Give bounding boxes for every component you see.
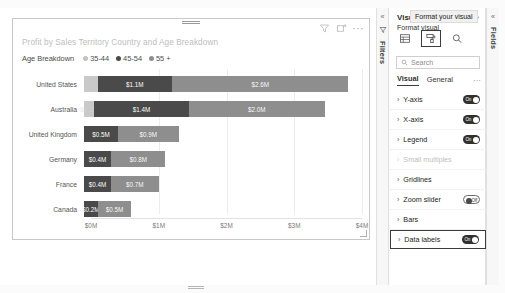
format-pane-tabstrip[interactable] bbox=[395, 30, 467, 47]
legend-swatch-icon bbox=[149, 56, 154, 61]
filter-icon[interactable] bbox=[319, 23, 330, 34]
toggle-knob bbox=[472, 237, 478, 243]
legend-item-55-plus[interactable]: 55 + bbox=[149, 54, 171, 63]
power-bi-window: ··· Profit by Sales Territory Country an… bbox=[0, 0, 505, 293]
data-label: $0.9M bbox=[140, 131, 158, 138]
bar-segment-45-54[interactable]: $1.1M bbox=[98, 76, 173, 92]
toggle-state-label: On bbox=[466, 137, 472, 142]
format-option-y-axis[interactable]: ›Y-axisOn bbox=[390, 90, 486, 110]
bar-segment-55-[interactable]: $0.5M bbox=[98, 201, 132, 217]
report-canvas[interactable]: ··· Profit by Sales Territory Country an… bbox=[0, 8, 376, 285]
data-label: $0.4M bbox=[89, 156, 107, 163]
legend-label: 35-44 bbox=[90, 54, 109, 63]
format-visual-tab[interactable] bbox=[421, 30, 441, 47]
analytics-tab[interactable] bbox=[447, 30, 467, 47]
bar-segment-45-54[interactable]: $1.4M bbox=[94, 101, 189, 117]
bar-segment-35-44[interactable] bbox=[84, 76, 98, 92]
bar-segment-55-[interactable]: $0.7M bbox=[111, 176, 158, 192]
format-pane-header: Visu » Format visual bbox=[390, 8, 485, 52]
format-option-small-multiples[interactable]: ›Small multiples bbox=[390, 150, 486, 170]
data-label: $0.5M bbox=[92, 131, 110, 138]
bar-segment-55-[interactable]: $2.6M bbox=[172, 76, 348, 92]
chevron-right-icon[interactable]: › bbox=[397, 116, 399, 123]
tab-general[interactable]: General bbox=[427, 75, 453, 86]
format-option-label: Y-axis bbox=[403, 95, 422, 104]
visual-drag-handle[interactable] bbox=[182, 21, 200, 24]
data-label: $0.8M bbox=[129, 156, 147, 163]
category-label: Australia bbox=[22, 106, 84, 113]
bar-track: $0.5M$0.9M bbox=[84, 126, 362, 142]
bar-segment-35-44[interactable]: $0.1M bbox=[84, 101, 94, 117]
toggle-knob bbox=[473, 97, 479, 103]
data-label: $0.5M bbox=[106, 206, 124, 213]
fields-rail[interactable]: « Fields bbox=[486, 8, 499, 285]
legend-swatch-icon bbox=[83, 56, 88, 61]
x-axis-tick: $4M bbox=[356, 222, 368, 229]
format-option-label: Data labels bbox=[404, 235, 440, 244]
bar-segment-45-54[interactable]: $0.2M bbox=[84, 201, 98, 217]
bar-segment-55-[interactable]: $2.0M bbox=[189, 101, 325, 117]
filters-rail[interactable]: « Filters bbox=[376, 8, 389, 285]
visual-header-icons[interactable]: ··· bbox=[319, 23, 365, 34]
format-your-visual-tooltip: Format your visual bbox=[410, 10, 478, 23]
chart-bar-row[interactable]: Germany$0.4M$0.8M bbox=[22, 148, 362, 170]
chart-legend[interactable]: Age Breakdown 35-44 45-54 55 + bbox=[22, 54, 171, 63]
subtab-more-icon[interactable]: ··· bbox=[473, 78, 481, 83]
chart-bar-row[interactable]: Australia$0.1M$1.4M$2.0M bbox=[22, 98, 362, 120]
format-option-data-labels[interactable]: ›Data labelsOn bbox=[390, 230, 486, 249]
format-option-x-axis[interactable]: ›X-axisOn bbox=[390, 110, 486, 130]
legend-item-35-44[interactable]: 35-44 bbox=[83, 54, 109, 63]
chevron-right-icon[interactable]: › bbox=[397, 96, 399, 103]
stacked-bar-visual[interactable]: ··· Profit by Sales Territory Country an… bbox=[12, 18, 370, 240]
chart-bar-row[interactable]: United States$1.1M$2.6M bbox=[22, 73, 362, 95]
bar-track: $0.2M$0.5M bbox=[84, 201, 362, 217]
focus-mode-icon[interactable] bbox=[336, 23, 347, 34]
toggle-switch[interactable]: Off bbox=[463, 195, 480, 204]
format-option-legend[interactable]: ›LegendOn bbox=[390, 130, 486, 150]
legend-label: 55 + bbox=[156, 54, 171, 63]
toggle-switch[interactable]: On bbox=[463, 95, 480, 104]
legend-item-45-54[interactable]: 45-54 bbox=[116, 54, 142, 63]
canvas-drag-handle[interactable] bbox=[188, 286, 204, 289]
visual-resize-grip[interactable] bbox=[360, 230, 367, 237]
format-option-zoom-slider[interactable]: ›Zoom sliderOff bbox=[390, 190, 486, 210]
toggle-switch[interactable]: On bbox=[463, 115, 480, 124]
legend-title: Age Breakdown bbox=[22, 54, 74, 63]
format-subtabs[interactable]: Visual General ··· bbox=[397, 74, 481, 86]
data-label: $1.1M bbox=[126, 81, 144, 88]
toggle-switch[interactable]: On bbox=[463, 135, 480, 144]
x-axis-tick: $1M bbox=[153, 222, 165, 229]
bar-segment-55-[interactable]: $0.9M bbox=[118, 126, 179, 142]
category-label: France bbox=[22, 181, 84, 188]
visualizations-format-pane[interactable]: Visu » Format visual bbox=[390, 8, 486, 285]
category-label: United Kingdom bbox=[22, 131, 84, 138]
tab-visual[interactable]: Visual bbox=[397, 74, 419, 86]
format-option-label: Legend bbox=[403, 135, 427, 144]
chart-bar-row[interactable]: Canada$0.2M$0.5M bbox=[22, 198, 362, 220]
chart-bar-row[interactable]: France$0.4M$0.7M bbox=[22, 173, 362, 195]
toggle-switch[interactable]: On bbox=[462, 235, 479, 244]
chevron-right-icon[interactable]: › bbox=[397, 176, 399, 183]
toggle-state-label: On bbox=[466, 97, 472, 102]
chevron-right-icon[interactable]: › bbox=[397, 136, 399, 143]
build-visual-tab[interactable] bbox=[395, 30, 415, 47]
bar-segment-55-[interactable]: $0.8M bbox=[111, 151, 165, 167]
format-option-bars[interactable]: ›Bars bbox=[390, 210, 486, 230]
bar-segment-45-54[interactable]: $0.4M bbox=[84, 176, 111, 192]
chevron-right-icon[interactable]: › bbox=[397, 156, 399, 163]
format-option-label: Bars bbox=[403, 215, 418, 224]
format-option-gridlines[interactable]: ›Gridlines bbox=[390, 170, 486, 190]
chart-bar-row[interactable]: United Kingdom$0.5M$0.9M bbox=[22, 123, 362, 145]
chevron-right-icon[interactable]: › bbox=[397, 196, 399, 203]
search-icon bbox=[401, 59, 408, 66]
collapse-icon[interactable]: « bbox=[491, 13, 495, 20]
chart-bars: United States$1.1M$2.6MAustralia$0.1M$1.… bbox=[22, 73, 362, 223]
more-options-icon[interactable]: ··· bbox=[353, 25, 365, 33]
paint-roller-icon bbox=[425, 33, 437, 44]
collapse-icon[interactable]: « bbox=[381, 13, 385, 20]
chevron-right-icon[interactable]: › bbox=[397, 216, 399, 223]
bar-segment-45-54[interactable]: $0.5M bbox=[84, 126, 118, 142]
bar-segment-45-54[interactable]: $0.4M bbox=[84, 151, 111, 167]
search-input[interactable]: Search bbox=[396, 56, 480, 69]
chevron-right-icon[interactable]: › bbox=[398, 236, 400, 243]
